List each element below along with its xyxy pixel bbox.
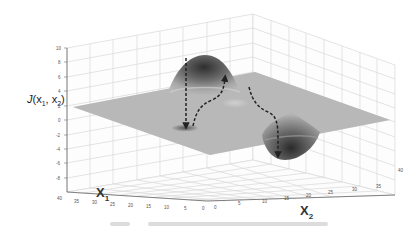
x2-label-sub: 2 <box>309 212 313 221</box>
svg-text:25: 25 <box>328 190 334 195</box>
svg-text:8: 8 <box>58 60 61 65</box>
caption-fragment <box>110 222 130 226</box>
svg-text:5: 5 <box>238 201 241 206</box>
svg-text:20: 20 <box>306 193 312 198</box>
svg-text:35: 35 <box>376 184 382 189</box>
x2-label-main: X <box>300 203 309 218</box>
svg-text:0: 0 <box>58 118 61 123</box>
svg-text:10: 10 <box>164 205 170 210</box>
svg-text:0: 0 <box>202 206 205 211</box>
svg-text:35: 35 <box>74 199 80 204</box>
svg-text:40: 40 <box>398 168 404 173</box>
surface-dip <box>172 125 198 132</box>
z-axis: 10 8 6 4 2 0 -2 -4 -6 -8 <box>56 46 67 192</box>
svg-text:25: 25 <box>110 202 116 207</box>
svg-text:-6: -6 <box>56 161 60 166</box>
svg-text:15: 15 <box>146 204 152 209</box>
x2-axis-label: X2 <box>300 203 313 221</box>
svg-text:30: 30 <box>352 187 358 192</box>
svg-text:6: 6 <box>58 75 61 80</box>
surface-bump <box>221 99 249 109</box>
z-label-close: ) <box>61 93 65 105</box>
svg-text:-8: -8 <box>56 176 60 181</box>
svg-text:-2: -2 <box>56 133 60 138</box>
x1-axis-label: X1 <box>96 185 109 203</box>
svg-text:20: 20 <box>128 203 134 208</box>
z-label-open: (x <box>33 93 42 105</box>
x1-label-sub: 1 <box>105 194 109 203</box>
svg-text:0: 0 <box>214 205 217 210</box>
z-axis-label: J(x1, x2) <box>27 93 65 107</box>
svg-text:40: 40 <box>57 196 63 201</box>
svg-text:-4: -4 <box>56 147 60 152</box>
x1-label-main: X <box>96 185 105 200</box>
svg-text:10: 10 <box>262 199 268 204</box>
svg-text:5: 5 <box>184 206 187 211</box>
svg-text:15: 15 <box>284 196 290 201</box>
svg-text:10: 10 <box>56 46 62 51</box>
surface-plot: 10 8 6 4 2 0 -2 -4 -6 -8 40 35 30 25 20 … <box>0 0 418 232</box>
z-label-mid: , x <box>46 93 58 105</box>
caption-fragment <box>148 222 328 226</box>
